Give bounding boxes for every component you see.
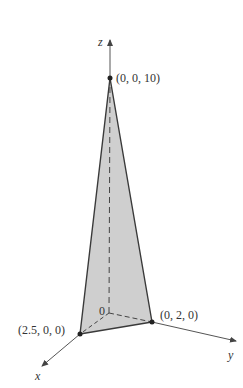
y-intercept-label: (0, 2, 0) (160, 308, 198, 322)
y-intercept-point (150, 320, 155, 325)
x-intercept-point (78, 332, 83, 337)
diagram-svg: z x y 0 (0, 0, 10) (2.5, 0, 0) (0, 2, 0) (0, 0, 243, 388)
shaded-face (80, 78, 152, 334)
x-axis (42, 334, 80, 366)
origin-label: 0 (99, 304, 105, 318)
y-axis (152, 322, 236, 341)
tetrahedron-figure: z x y 0 (0, 0, 10) (2.5, 0, 0) (0, 2, 0) (0, 0, 243, 388)
x-axis-label: x (34, 369, 41, 383)
y-axis-label: y (227, 348, 234, 362)
apex-label: (0, 0, 10) (116, 71, 160, 85)
x-intercept-label: (2.5, 0, 0) (18, 323, 65, 337)
apex-point (108, 76, 113, 81)
z-axis-label: z (97, 35, 103, 49)
